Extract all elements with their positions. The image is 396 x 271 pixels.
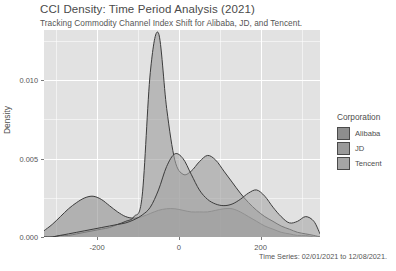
x-tick-mark: [179, 237, 180, 240]
legend-item-jd[interactable]: JD: [337, 141, 382, 155]
y-tick-label: 0.005: [20, 154, 39, 163]
chart-title: CCI Density: Time Period Analysis (2021): [40, 3, 255, 15]
y-tick-label: 0.010: [20, 76, 39, 85]
y-tick-mark: [41, 237, 44, 238]
density-chart: CCI Density: Time Period Analysis (2021)…: [0, 0, 396, 271]
x-tick-mark: [261, 237, 262, 240]
legend-swatch-alibaba: [337, 127, 350, 140]
legend-items: AlibabaJDTencent: [337, 126, 382, 170]
legend: Corporation AlibabaJDTencent: [337, 112, 382, 171]
y-tick-mark: [41, 159, 44, 160]
y-axis-label: Density: [2, 106, 12, 134]
legend-swatch-jd: [337, 142, 350, 155]
legend-label: Alibaba: [355, 129, 380, 138]
legend-item-tencent[interactable]: Tencent: [337, 156, 382, 170]
x-tick-label: -200: [90, 243, 105, 252]
legend-item-alibaba[interactable]: Alibaba: [337, 126, 382, 140]
chart-subtitle: Tracking Commodity Channel Index Shift f…: [40, 18, 302, 28]
x-axis-caption: Time Series: 02/01/2021 to 12/08/2021.: [259, 252, 387, 261]
plot-panel: [44, 30, 320, 237]
legend-title: Corporation: [337, 112, 382, 122]
x-tick-label: 200: [254, 243, 267, 252]
legend-label: JD: [355, 144, 364, 153]
density-curves: [44, 30, 320, 237]
x-tick-label: 0: [177, 243, 181, 252]
y-tick-label: 0.000: [20, 233, 39, 242]
legend-swatch-tencent: [337, 157, 350, 170]
x-tick-mark: [97, 237, 98, 240]
legend-label: Tencent: [355, 159, 382, 168]
y-tick-mark: [41, 80, 44, 81]
